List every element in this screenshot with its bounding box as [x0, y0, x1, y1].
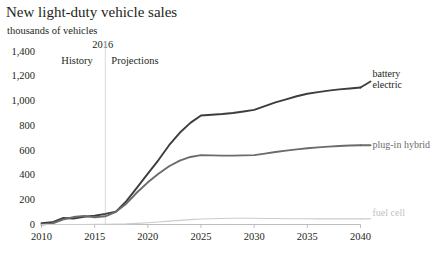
- x-axis-tick-label: 2020: [128, 231, 168, 242]
- x-axis-tick-label: 2025: [181, 231, 221, 242]
- x-axis-tick-label: 2010: [22, 231, 62, 242]
- y-axis-tick-label: 1,200: [1, 70, 35, 81]
- x-axis-tick-label: 2015: [75, 231, 115, 242]
- x-axis-tick-label: 2040: [341, 231, 381, 242]
- y-axis-tick-label: 800: [1, 120, 35, 131]
- series-line-plug-in-hybrid: [42, 145, 361, 224]
- y-axis-tick-label: 400: [1, 169, 35, 180]
- line-chart-plot: [0, 0, 446, 260]
- y-axis-tick-label: 0: [1, 219, 35, 230]
- x-axis-tick-label: 2035: [287, 231, 327, 242]
- series-leader-line: [361, 82, 371, 88]
- y-axis-tick-label: 200: [1, 194, 35, 205]
- series-line-fuel-cell: [42, 218, 361, 224]
- y-axis-tick-label: 1,400: [1, 46, 35, 57]
- x-axis-tick-label: 2030: [234, 231, 274, 242]
- y-axis-tick-label: 600: [1, 145, 35, 156]
- y-axis-tick-label: 1,000: [1, 95, 35, 106]
- chart-page: New light-duty vehicle sales thousands o…: [0, 0, 446, 260]
